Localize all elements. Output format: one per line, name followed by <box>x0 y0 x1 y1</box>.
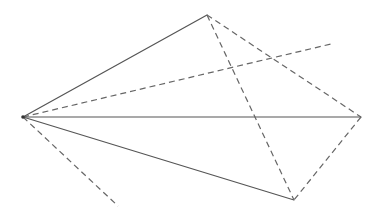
segment-AB-solid <box>23 15 207 117</box>
vertex-A <box>21 115 25 119</box>
geometry-diagram <box>0 0 386 216</box>
vertex-points <box>21 115 25 119</box>
segment-CD-dashed <box>294 117 361 200</box>
segment-BD-dashed <box>207 15 294 200</box>
segment-BC-dashed <box>207 15 361 117</box>
solid-lines <box>23 15 361 200</box>
dashed-lines <box>23 15 361 206</box>
segment-AE-dashed <box>23 44 331 117</box>
segment-AD-solid <box>23 117 294 200</box>
segment-AF-dashed <box>23 117 118 206</box>
